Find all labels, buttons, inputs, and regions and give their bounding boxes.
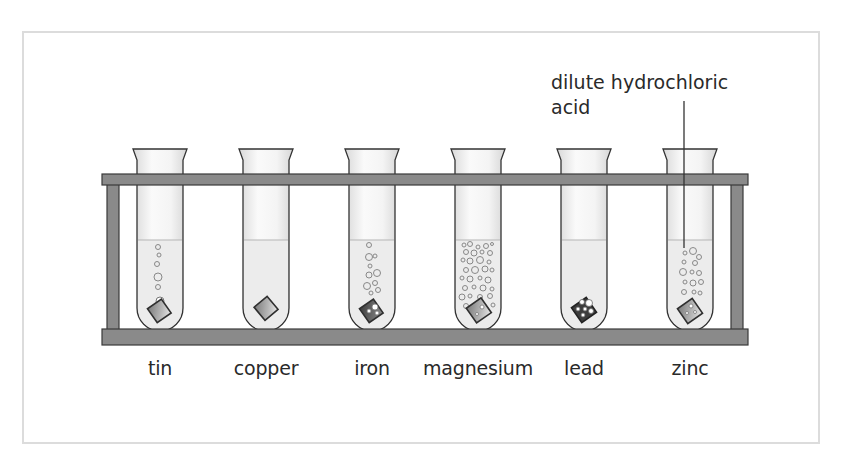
- rack-top-bar: [102, 174, 748, 185]
- annotation-line-2: acid: [551, 95, 728, 120]
- label-iron: iron: [354, 357, 390, 379]
- label-tin: tin: [148, 357, 172, 379]
- label-lead: lead: [564, 357, 604, 379]
- label-copper: copper: [234, 357, 299, 379]
- annotation-line-1: dilute hydrochloric: [551, 70, 728, 95]
- rack-right-leg: [731, 184, 743, 330]
- rack-left-leg: [107, 184, 119, 330]
- label-magnesium: magnesium: [423, 357, 533, 379]
- label-zinc: zinc: [672, 357, 709, 379]
- acid-annotation: dilute hydrochloric acid: [551, 70, 728, 120]
- rack-base: [102, 329, 748, 345]
